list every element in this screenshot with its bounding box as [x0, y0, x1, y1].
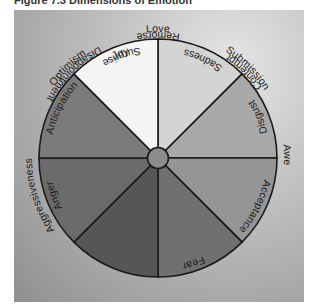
emotion-wheel: Acceptance Fear Surprise Sadness Disgust…: [0, 0, 312, 308]
label-remorse: Remorse: [136, 30, 180, 44]
svg-text:Remorse: Remorse: [136, 30, 180, 44]
label-awe: Awe: [281, 144, 294, 166]
center-hub: [148, 148, 169, 169]
svg-text:Awe: Awe: [281, 144, 294, 166]
